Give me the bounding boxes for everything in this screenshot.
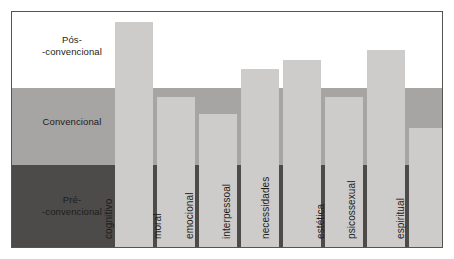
bar-label: moral [153,213,163,239]
chart-plot-area: Pós- -convencional Convencional Pré- -co… [11,11,443,248]
chart-figure: Pós- -convencional Convencional Pré- -co… [0,0,454,259]
bar-label: psicossexual [347,181,357,239]
bar-label: espiritual [396,198,406,239]
bar-label: estética [316,204,326,239]
bar-espiritual: espiritual [409,128,443,247]
bar-label: cognitivo [104,199,114,239]
bars-layer: cognitivomoralemocionalinterpessoalneces… [12,12,442,247]
bar-cognitivo: cognitivo [115,22,153,247]
bar-esttica: estética [325,97,363,247]
bar-label: necessidades [261,177,271,239]
bar-label: interpessoal [222,184,232,239]
bar-label: emocional [185,193,195,239]
